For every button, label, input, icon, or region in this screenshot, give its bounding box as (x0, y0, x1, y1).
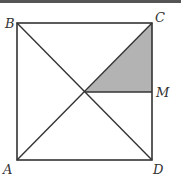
label-C: C (155, 10, 165, 25)
geometry-figure: B C A D M (0, 0, 181, 180)
label-B: B (4, 16, 15, 31)
label-M: M (155, 85, 170, 100)
label-A: A (2, 162, 12, 177)
label-D: D (152, 162, 164, 177)
